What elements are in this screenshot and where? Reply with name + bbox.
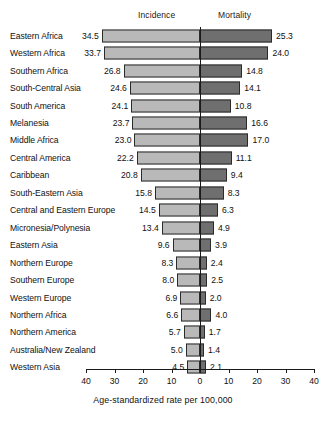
incidence-bar xyxy=(186,343,200,356)
chart-row: Northern Africa6.64.0 xyxy=(0,306,326,324)
x-tick-label: 40 xyxy=(81,376,91,386)
mortality-bar xyxy=(200,256,207,269)
mortality-value: 2.1 xyxy=(210,362,222,372)
mortality-bar xyxy=(200,151,232,164)
incidence-value: 8.0 xyxy=(162,275,174,285)
incidence-value: 9.6 xyxy=(158,240,170,250)
incidence-bar xyxy=(180,291,200,304)
x-tick xyxy=(86,369,87,373)
incidence-bar xyxy=(104,47,200,60)
region-label: Northern Europe xyxy=(10,258,73,268)
chart-row: Southern Europe8.02.5 xyxy=(0,271,326,289)
region-label: Middle Africa xyxy=(10,135,59,145)
incidence-bar xyxy=(184,326,200,339)
x-tick xyxy=(314,369,315,373)
incidence-value: 34.5 xyxy=(82,31,99,41)
region-label: South America xyxy=(10,101,65,111)
mortality-value: 2.4 xyxy=(211,258,223,268)
mortality-bar xyxy=(200,186,224,199)
region-label: Western Asia xyxy=(10,362,60,372)
region-label: Central and Eastern Europe xyxy=(10,205,115,215)
mortality-value: 11.1 xyxy=(236,153,252,163)
incidence-bar xyxy=(173,239,200,252)
region-label: Southern Africa xyxy=(10,66,68,76)
incidence-bar xyxy=(137,151,200,164)
incidence-value: 8.3 xyxy=(161,258,173,268)
x-tick xyxy=(229,369,230,373)
incidence-bar xyxy=(132,117,200,130)
incidence-value: 5.0 xyxy=(171,345,183,355)
mortality-bar xyxy=(200,274,207,287)
incidence-value: 23.7 xyxy=(113,118,130,128)
region-label: Northern Africa xyxy=(10,310,67,320)
region-label: Eastern Asia xyxy=(10,240,58,250)
region-label: Southern Europe xyxy=(10,275,74,285)
x-tick xyxy=(143,369,144,373)
chart-row: Northern America5.71.7 xyxy=(0,324,326,342)
mortality-value: 16.6 xyxy=(251,118,268,128)
chart-row: Western Asia4.52.1 xyxy=(0,359,326,377)
incidence-value: 26.8 xyxy=(104,66,121,76)
region-label: South-Central Asia xyxy=(10,83,81,93)
incidence-value: 22.2 xyxy=(117,153,134,163)
mortality-value: 6.3 xyxy=(222,205,234,215)
chart-row: Melanesia23.716.6 xyxy=(0,114,326,132)
region-label: Western Africa xyxy=(10,48,65,58)
chart-row: Caribbean20.89.4 xyxy=(0,167,326,185)
chart-row: South America24.110.8 xyxy=(0,97,326,115)
incidence-bar xyxy=(187,361,200,374)
mortality-value: 1.7 xyxy=(209,327,221,337)
incidence-bar xyxy=(141,169,200,182)
mortality-value: 4.0 xyxy=(215,310,227,320)
mortality-value: 1.4 xyxy=(208,345,220,355)
incidence-bar xyxy=(176,256,200,269)
mortality-bar xyxy=(200,308,211,321)
region-label: Caribbean xyxy=(10,170,49,180)
incidence-value: 24.6 xyxy=(110,83,127,93)
x-tick-label: 20 xyxy=(138,376,148,386)
x-tick-label: 30 xyxy=(281,376,291,386)
x-tick-label: 10 xyxy=(224,376,234,386)
mortality-bar xyxy=(200,29,272,42)
incidence-value: 6.6 xyxy=(166,310,178,320)
region-label: Australia/New Zealand xyxy=(10,345,95,355)
incidence-bar xyxy=(181,308,200,321)
region-label: Western Europe xyxy=(10,293,71,303)
x-tick xyxy=(257,369,258,373)
mortality-bar xyxy=(200,82,240,95)
mortality-bar xyxy=(200,221,214,234)
incidence-bar xyxy=(134,134,200,147)
chart-row: Central America22.211.1 xyxy=(0,149,326,167)
diverging-bar-chart: Incidence Mortality Eastern Africa34.525… xyxy=(0,0,326,427)
incidence-value: 5.7 xyxy=(169,327,181,337)
mortality-bar xyxy=(200,99,231,112)
x-tick-label: 40 xyxy=(309,376,319,386)
chart-row: Northern Europe8.32.4 xyxy=(0,254,326,272)
x-axis-title: Age-standardized rate per 100,000 xyxy=(0,395,326,405)
chart-row: Micronesia/Polynesia13.44.9 xyxy=(0,219,326,237)
x-tick xyxy=(172,369,173,373)
mortality-value: 2.0 xyxy=(210,293,222,303)
incidence-value: 23.0 xyxy=(115,135,132,145)
region-label: Melanesia xyxy=(10,118,49,128)
mortality-value: 14.1 xyxy=(244,83,261,93)
zero-axis-line xyxy=(200,27,201,369)
region-label: South-Eastern Asia xyxy=(10,188,83,198)
mortality-value: 24.0 xyxy=(272,48,289,58)
x-tick xyxy=(115,369,116,373)
x-tick-label: 0 xyxy=(198,376,203,386)
region-label: Central America xyxy=(10,153,70,163)
incidence-value: 13.4 xyxy=(142,223,159,233)
incidence-bar xyxy=(155,186,200,199)
chart-row: South-Eastern Asia15.88.3 xyxy=(0,184,326,202)
incidence-value: 20.8 xyxy=(121,170,138,180)
mortality-bar xyxy=(200,47,268,60)
incidence-value: 14.5 xyxy=(139,205,156,215)
x-tick xyxy=(200,369,201,373)
x-tick-label: 10 xyxy=(167,376,177,386)
mortality-value: 25.3 xyxy=(276,31,293,41)
region-label: Northern America xyxy=(10,327,76,337)
mortality-value: 8.3 xyxy=(228,188,240,198)
mortality-bar xyxy=(200,169,227,182)
incidence-bar xyxy=(130,82,200,95)
